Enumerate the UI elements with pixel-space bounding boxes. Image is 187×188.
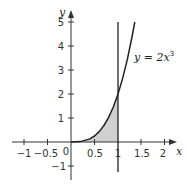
- x-axis: [12, 139, 177, 145]
- y-tick-label: 4: [58, 41, 64, 52]
- y-tick-label: −1: [51, 161, 66, 172]
- x-tick-label: 1.5: [134, 148, 150, 159]
- x-tick-label: 0.5: [87, 148, 103, 159]
- y-axis-arrow-icon: [68, 10, 74, 18]
- curve-label: y = 2x3: [133, 50, 174, 64]
- origin-label: 0: [63, 146, 69, 157]
- x-tick-label: 2: [160, 148, 166, 159]
- y-tick-label: 3: [58, 65, 64, 76]
- shaded-area: [71, 94, 118, 142]
- chart-canvas: −1 −0.5 0 0.5 1 1.5 2 5 4 3 2 1 −1 x y y…: [0, 0, 187, 188]
- curve-label-exponent: 3: [170, 50, 174, 58]
- x-axis-label: x: [176, 145, 183, 158]
- y-tick-label: 1: [58, 113, 64, 124]
- curve-label-main: y = 2x: [133, 51, 170, 64]
- curve-y-2x3: [71, 22, 135, 142]
- y-axis-label: y: [58, 6, 66, 19]
- x-tick-label: −1: [17, 148, 32, 159]
- x-tick-label: −0.5: [34, 148, 58, 159]
- x-tick-label: 1: [115, 148, 121, 159]
- y-tick-label: 2: [58, 89, 64, 100]
